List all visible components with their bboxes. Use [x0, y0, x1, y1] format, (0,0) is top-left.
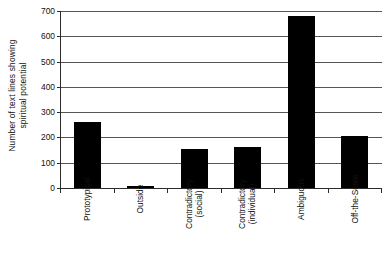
y-axis-tick-labels: 0100200300400500600700: [34, 0, 58, 195]
x-tick-mark-3: [221, 188, 222, 193]
x-tick-mark-0: [60, 188, 61, 193]
x-tick-label-5: Off-the-Scale: [323, 194, 386, 257]
x-tick-label-3-line-2: (individual): [247, 179, 257, 229]
y-tick-label-100: 100: [41, 158, 55, 167]
y-tick-label-400: 400: [41, 82, 55, 91]
plot-area: [60, 11, 382, 188]
x-tick-label-0-line-1: Prototypical: [82, 177, 92, 221]
y-axis-title-line-2: spiritual potential: [17, 62, 27, 128]
x-tick-mark-2: [167, 188, 168, 193]
x-tick-mark-5: [328, 188, 329, 193]
y-tick-label-600: 600: [41, 32, 55, 41]
x-tick-label-2-line-2: (social): [194, 179, 204, 229]
x-tick-mark-1: [114, 188, 115, 193]
y-tick-label-500: 500: [41, 57, 55, 66]
x-tick-mark-6: [381, 188, 382, 193]
bars-layer: [61, 11, 382, 188]
y-axis-title: Number of text lines showing spiritual p…: [0, 0, 34, 190]
x-tick-label-1-line-1: Outside: [135, 185, 145, 214]
y-tick-label-700: 700: [41, 7, 55, 16]
y-tick-label-300: 300: [41, 108, 55, 117]
y-tick-label-200: 200: [41, 133, 55, 142]
y-tick-label-0: 0: [50, 184, 55, 193]
y-axis-title-line-1: Number of text lines showing: [7, 39, 17, 151]
bar-chart: Number of text lines showing spiritual p…: [0, 0, 387, 257]
x-tick-label-2-line-1: Contradictory: [184, 179, 194, 229]
x-tick-label-5-line-1: Off-the-Scale: [349, 174, 359, 223]
x-axis-tick-labels: PrototypicalOutsideContradictory(social)…: [60, 194, 382, 257]
x-tick-label-4-line-1: Ambiguous: [296, 178, 306, 220]
bar-4: [288, 16, 315, 188]
x-tick-mark-4: [274, 188, 275, 193]
x-tick-label-3-line-1: Contradictory: [237, 179, 247, 229]
